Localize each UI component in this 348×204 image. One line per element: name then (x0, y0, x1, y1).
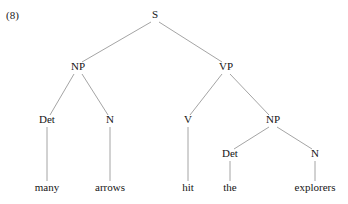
terminal-word-w4: the (223, 181, 237, 193)
tree-node-np1: NP (71, 60, 85, 72)
tree-node-det2: Det (222, 147, 238, 159)
tree-branch-np1-n1 (82, 74, 108, 115)
tree-nodes-group: SNPVPDetNVNPDetNmanyarrowshittheexplorer… (35, 8, 336, 193)
tree-node-np2: NP (266, 113, 280, 125)
tree-branch-s-np1 (82, 22, 151, 62)
tree-node-n2: N (311, 147, 319, 159)
tree-branch-np2-det2 (234, 127, 269, 149)
tree-branch-np2-n2 (277, 127, 312, 149)
syntax-tree-figure: (8) SNPVPDetNVNPDetNmanyarrowshittheexpl… (0, 0, 348, 204)
terminal-word-w5: explorers (295, 181, 336, 193)
tree-branch-np1-det1 (50, 74, 74, 115)
syntax-tree-canvas: SNPVPDetNVNPDetNmanyarrowshittheexplorer… (0, 0, 348, 204)
tree-branch-vp-np2 (230, 74, 269, 115)
tree-node-s: S (152, 8, 158, 20)
tree-node-v: V (184, 113, 192, 125)
terminal-word-w2: arrows (95, 181, 125, 193)
tree-node-det1: Det (39, 113, 55, 125)
tree-node-vp: VP (219, 60, 233, 72)
tree-edges-group (47, 22, 315, 181)
tree-branch-vp-v (190, 74, 222, 115)
terminal-word-w1: many (35, 181, 60, 193)
terminal-word-w3: hit (182, 181, 194, 193)
tree-branch-s-vp (159, 22, 222, 62)
tree-node-n1: N (106, 113, 114, 125)
